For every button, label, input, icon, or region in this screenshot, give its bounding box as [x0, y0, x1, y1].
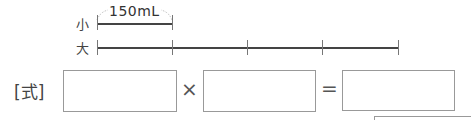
- equation-prefix: [式]: [14, 78, 44, 103]
- tick: [97, 15, 98, 30]
- answer-box-1[interactable]: [63, 70, 177, 112]
- times-sign: ×: [181, 77, 198, 101]
- large-label: 大: [76, 38, 89, 57]
- tick: [247, 40, 248, 55]
- small-label: 小: [76, 14, 89, 33]
- small-bar: [97, 23, 172, 25]
- tick: [97, 40, 98, 55]
- tick: [172, 15, 173, 30]
- tick: [398, 40, 399, 55]
- equals-sign: =: [321, 76, 338, 100]
- tick: [322, 40, 323, 55]
- answer-box-result[interactable]: [342, 70, 455, 111]
- tick: [172, 40, 173, 55]
- next-box-edge: [374, 116, 471, 120]
- answer-box-2[interactable]: [203, 70, 316, 112]
